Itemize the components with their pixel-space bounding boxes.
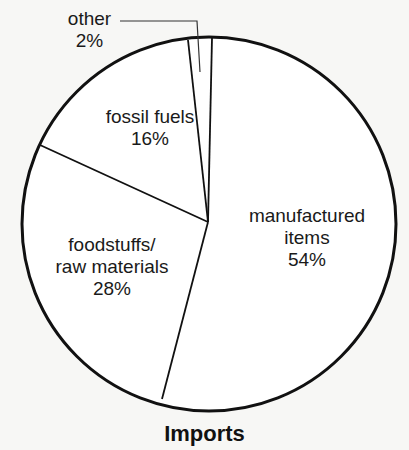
label-foodstuffs-line1: foodstuffs/ [42,234,182,256]
label-manufactured-line2: items [232,227,382,249]
label-other: other 2% [62,8,117,52]
chart-title: Imports [0,420,409,448]
label-fossil-pct: 16% [85,128,215,150]
label-foodstuffs-pct: 28% [42,278,182,300]
label-manufactured: manufactured items 54% [232,205,382,271]
label-manufactured-pct: 54% [232,249,382,271]
label-other-pct: 2% [62,30,117,52]
label-fossil-name: fossil fuels [85,106,215,128]
label-other-name: other [62,8,117,30]
label-foodstuffs-line2: raw materials [42,256,182,278]
label-foodstuffs: foodstuffs/ raw materials 28% [42,234,182,300]
label-fossil-fuels: fossil fuels 16% [85,106,215,150]
label-manufactured-line1: manufactured [232,205,382,227]
